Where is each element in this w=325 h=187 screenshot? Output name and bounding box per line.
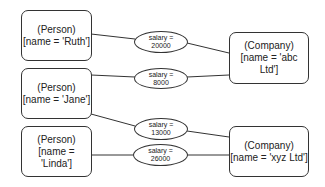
person-node-ruth[interactable]: (Person) [name = 'Ruth'] [21, 10, 92, 61]
edge-key: salary = [149, 121, 174, 129]
node-type: (Company) [244, 140, 293, 152]
edge-jane-salary-8000 [91, 75, 135, 77]
node-type: (Person) [37, 82, 75, 94]
edge-value: 13000 [151, 129, 170, 137]
node-label: [name = 'Linda'] [22, 146, 91, 170]
salary-edge-label-26000[interactable]: salary = 26000 [133, 144, 188, 166]
node-label: [name = 'Jane'] [23, 94, 90, 106]
edge-value: 26000 [151, 155, 170, 163]
salary-edge-label-13000[interactable]: salary = 13000 [134, 118, 188, 140]
person-node-jane[interactable]: (Person) [name = 'Jane'] [21, 68, 92, 119]
edge-value: 8000 [153, 79, 169, 87]
edge-jane-salary-13000 [91, 114, 135, 126]
salary-edge-label-8000[interactable]: salary = 8000 [134, 68, 188, 89]
node-label: [name = 'abc Ltd'] [230, 52, 308, 76]
edge-salary-abc [187, 43, 229, 53]
edge-salary13000-xyz [187, 131, 229, 137]
company-node-xyz[interactable]: (Company) [name = 'xyz Ltd'] [229, 126, 309, 177]
company-node-abc[interactable]: (Company) [name = 'abc Ltd'] [229, 32, 309, 84]
edge-salary8000-abc [187, 75, 229, 77]
node-label: [name = 'Ruth'] [23, 36, 90, 48]
node-type: (Person) [37, 134, 75, 146]
edge-value: 20000 [151, 42, 170, 50]
person-node-linda[interactable]: (Person) [name = 'Linda'] [21, 126, 92, 177]
edge-key: salary = [149, 34, 174, 42]
edge-ruth-salary [91, 34, 135, 39]
node-type: (Person) [37, 24, 75, 36]
node-label: [name = 'xyz Ltd'] [230, 152, 307, 164]
edge-key: salary = [148, 147, 173, 155]
salary-edge-label-20000[interactable]: salary = 20000 [134, 31, 188, 53]
edge-key: salary = [149, 71, 174, 79]
node-type: (Company) [244, 40, 293, 52]
